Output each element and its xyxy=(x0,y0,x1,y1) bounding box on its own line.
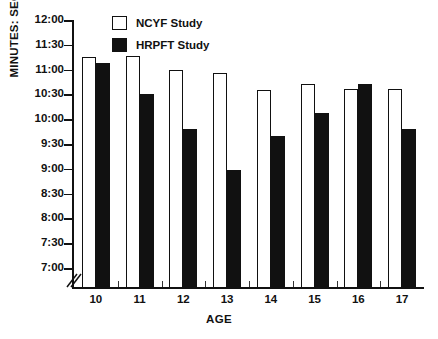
bar-ncyf-age-11 xyxy=(126,56,140,287)
bar-hrpft-age-16 xyxy=(358,84,372,287)
bar-hrpft-age-11 xyxy=(140,94,154,287)
bar-ncyf-age-14 xyxy=(257,90,271,287)
legend-item-hrpft: HRPFT Study xyxy=(112,36,209,54)
x-group-separator xyxy=(380,281,381,287)
bar-group xyxy=(344,84,372,287)
x-tick-label: 14 xyxy=(251,293,291,305)
x-group-separator xyxy=(249,281,250,287)
bar-ncyf-age-15 xyxy=(301,84,315,287)
bar-hrpft-age-17 xyxy=(402,129,416,287)
bar-group xyxy=(257,90,285,287)
x-group-separator xyxy=(162,281,163,287)
x-group-separator xyxy=(118,281,119,287)
y-axis-tick-labels: 12:0011:3011:0010:3010:009:309:008:308:0… xyxy=(12,0,64,339)
x-group-separator xyxy=(293,281,294,287)
white-square-icon xyxy=(112,16,127,30)
bar-group xyxy=(169,70,197,287)
bar-ncyf-age-16 xyxy=(344,89,358,287)
y-tick-label: 8:00 xyxy=(22,211,64,223)
x-tick-label: 17 xyxy=(382,293,422,305)
bar-hrpft-age-10 xyxy=(96,63,110,287)
bar-hrpft-age-15 xyxy=(315,113,329,287)
y-tick-mark xyxy=(64,243,72,245)
bar-ncyf-age-10 xyxy=(82,57,96,287)
bar-ncyf-age-12 xyxy=(169,70,183,287)
legend-item-ncyf: NCYF Study xyxy=(112,14,209,32)
bar-group xyxy=(388,89,416,287)
x-tick-label: 16 xyxy=(338,293,378,305)
y-tick-mark xyxy=(64,70,72,72)
chart-legend: NCYF Study HRPFT Study xyxy=(112,14,209,58)
y-tick-label: 11:30 xyxy=(22,38,64,50)
y-tick-mark xyxy=(64,218,72,220)
plot-area xyxy=(74,20,424,287)
x-group-separator xyxy=(205,281,206,287)
y-tick-mark xyxy=(64,119,72,121)
bar-group xyxy=(82,57,110,287)
y-tick-label: 9:30 xyxy=(22,137,64,149)
y-tick-mark xyxy=(64,94,72,96)
bar-chart: MINUTES: SECONDS 12:0011:3011:0010:3010:… xyxy=(0,0,438,339)
y-tick-mark xyxy=(64,45,72,47)
y-tick-mark xyxy=(64,20,72,22)
y-tick-label: 12:00 xyxy=(22,13,64,25)
x-axis-title: AGE xyxy=(0,313,438,325)
black-square-icon xyxy=(112,38,127,52)
legend-label-hrpft: HRPFT Study xyxy=(136,39,209,51)
y-tick-mark xyxy=(64,194,72,196)
y-tick-mark xyxy=(64,169,72,171)
y-tick-mark xyxy=(64,268,72,270)
legend-label-ncyf: NCYF Study xyxy=(136,17,202,29)
x-tick-label: 11 xyxy=(120,293,160,305)
x-tick-label: 13 xyxy=(207,293,247,305)
bar-group xyxy=(213,73,241,287)
x-tick-label: 15 xyxy=(295,293,335,305)
y-tick-label: 7:30 xyxy=(22,236,64,248)
bar-hrpft-age-12 xyxy=(183,129,197,287)
y-tick-mark xyxy=(64,144,72,146)
bar-hrpft-age-13 xyxy=(227,170,241,287)
x-axis-line xyxy=(72,287,424,289)
y-tick-label: 7:00 xyxy=(22,261,64,273)
y-tick-label: 10:00 xyxy=(22,112,64,124)
x-tick-label: 12 xyxy=(163,293,203,305)
y-tick-label: 11:00 xyxy=(22,63,64,75)
bar-ncyf-age-13 xyxy=(213,73,227,287)
y-tick-label: 10:30 xyxy=(22,87,64,99)
y-tick-label: 9:00 xyxy=(22,162,64,174)
bar-group xyxy=(126,56,154,287)
bar-group xyxy=(301,84,329,287)
x-group-separator xyxy=(337,281,338,287)
bar-hrpft-age-14 xyxy=(271,136,285,287)
bar-ncyf-age-17 xyxy=(388,89,402,287)
x-tick-label: 10 xyxy=(76,293,116,305)
y-tick-label: 8:30 xyxy=(22,187,64,199)
